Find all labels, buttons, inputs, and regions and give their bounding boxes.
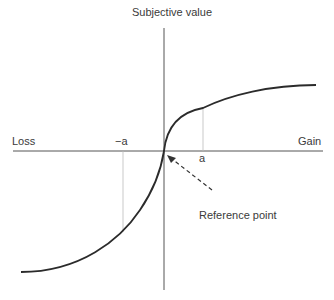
reference-arrow	[172, 159, 212, 190]
value-function-diagram: Subjective value Loss Gain −a a Referenc…	[0, 0, 334, 300]
y-axis-title: Subjective value	[0, 7, 334, 18]
reference-point-label: Reference point	[199, 210, 277, 221]
positive-a-tick-label: a	[199, 153, 205, 164]
value-curve	[21, 85, 316, 272]
loss-label: Loss	[12, 136, 35, 147]
negative-a-tick-label: −a	[115, 136, 128, 147]
gain-label: Gain	[298, 136, 321, 147]
arrowhead-icon	[167, 155, 176, 163]
diagram-canvas	[0, 0, 334, 300]
